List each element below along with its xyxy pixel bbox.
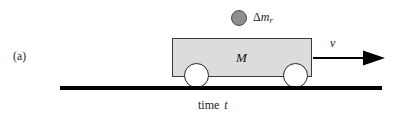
particle-sphere-icon (231, 10, 247, 26)
time-caption-text: time (198, 98, 219, 112)
ground-line (60, 86, 382, 90)
front-wheel-icon (283, 63, 308, 88)
rear-wheel-icon (184, 63, 209, 88)
panel-label: (a) (13, 50, 26, 62)
time-variable: t (224, 98, 227, 112)
delta-symbol: Δ (253, 10, 261, 24)
cart-mass-label: M (236, 50, 247, 66)
particle-mass-label: Δmr (253, 10, 273, 25)
velocity-arrow-icon (313, 48, 385, 68)
physics-figure-cart-diagram: (a) Δmr M v timet (0, 0, 396, 131)
mass-subscript: r (269, 15, 272, 25)
time-caption: timet (198, 98, 228, 113)
